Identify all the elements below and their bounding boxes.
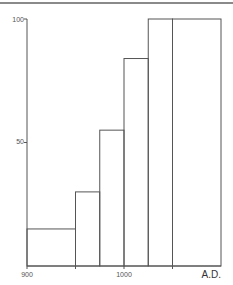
- x-tick-label-1000: 1000: [116, 271, 132, 278]
- histogram-bar-4: [124, 59, 148, 266]
- histogram-bar-5: [148, 19, 172, 266]
- bars: [27, 19, 221, 266]
- x-axis-unit-label: A.D.: [202, 269, 221, 280]
- y-tick-label-50: 50: [16, 138, 24, 145]
- histogram-chart: 100 50 900 1000 A.D.: [0, 0, 233, 285]
- x-tick-label-900: 900: [21, 271, 33, 278]
- y-tick-label-100: 100: [12, 16, 24, 23]
- histogram-bar-3: [100, 130, 124, 266]
- histogram-bar-2: [76, 192, 100, 266]
- histogram-bar-6: [173, 19, 222, 266]
- axes: [24, 19, 221, 269]
- histogram-bar-1: [27, 229, 76, 266]
